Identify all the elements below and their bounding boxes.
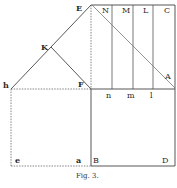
label-N: N	[102, 6, 109, 15]
label-F: F	[78, 79, 84, 89]
line-K-F	[51, 47, 91, 89]
label-L: L	[143, 6, 149, 15]
label-h: h	[3, 80, 9, 90]
label-a: a	[76, 155, 81, 165]
label-D: D	[162, 156, 168, 165]
label-M: M	[122, 6, 130, 15]
label-m: m	[127, 91, 135, 100]
label-n: n	[106, 91, 111, 100]
label-A: A	[164, 72, 171, 81]
label-e: e	[15, 155, 20, 165]
line-E-A	[92, 5, 175, 88]
label-E: E	[76, 3, 82, 13]
figure-caption: Fig. 3.	[76, 172, 99, 180]
label-B: B	[93, 156, 99, 165]
label-C: C	[164, 6, 170, 15]
geometry-figure: E N M L C K h F A n m l e a B D Fig. 3.	[0, 0, 177, 188]
label-K: K	[41, 42, 49, 52]
label-l: l	[150, 91, 153, 100]
